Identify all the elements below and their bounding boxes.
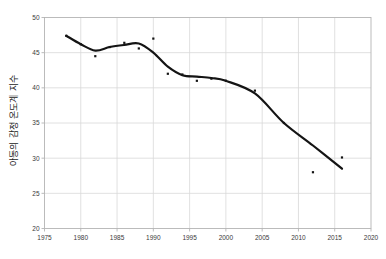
plot-canvas: 20253035404550 1975198019851990199520002…: [0, 0, 386, 259]
svg-text:1985: 1985: [110, 234, 125, 241]
svg-text:2015: 2015: [327, 234, 342, 241]
trend-line-series: [66, 36, 342, 169]
svg-text:30: 30: [32, 155, 40, 162]
svg-text:35: 35: [32, 119, 40, 126]
svg-text:1990: 1990: [146, 234, 161, 241]
chart-figure: 아동의 감정 온도계 지수 20253035404550 19751980198…: [0, 0, 386, 259]
svg-text:2010: 2010: [291, 234, 306, 241]
svg-text:20: 20: [32, 225, 40, 232]
svg-text:1995: 1995: [182, 234, 197, 241]
scatter-points-series: [65, 35, 343, 174]
svg-text:2000: 2000: [219, 234, 234, 241]
y-axis-ticks: 20253035404550: [32, 14, 44, 232]
svg-text:1975: 1975: [37, 234, 52, 241]
svg-text:25: 25: [32, 190, 40, 197]
svg-text:40: 40: [32, 84, 40, 91]
svg-text:45: 45: [32, 49, 40, 56]
svg-text:2020: 2020: [364, 234, 379, 241]
svg-text:2005: 2005: [255, 234, 270, 241]
svg-text:50: 50: [32, 14, 40, 21]
x-axis-ticks: 1975198019851990199520002005201020152020: [37, 229, 378, 242]
svg-text:1980: 1980: [74, 234, 89, 241]
